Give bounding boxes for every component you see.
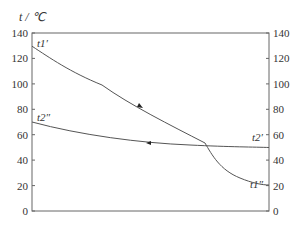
t2-out-label: t2″ [37, 111, 51, 123]
svg-text:120: 120 [12, 52, 29, 64]
t1-in-label: t1′ [37, 37, 49, 49]
svg-text:40: 40 [273, 154, 285, 166]
svg-text:40: 40 [17, 154, 29, 166]
chart: 0 20 40 60 80 100 120 140 0 20 40 60 80 … [0, 0, 301, 228]
series-t1-line [32, 46, 269, 185]
svg-text:100: 100 [12, 78, 29, 90]
svg-text:140: 140 [273, 27, 290, 39]
svg-text:100: 100 [273, 78, 290, 90]
t1-out-label: t1″ [250, 178, 264, 190]
t2-in-label: t2′ [252, 131, 264, 143]
svg-text:80: 80 [17, 103, 29, 115]
svg-text:80: 80 [273, 103, 285, 115]
svg-text:60: 60 [17, 129, 29, 141]
svg-text:20: 20 [17, 180, 29, 192]
svg-text:140: 140 [12, 27, 29, 39]
svg-text:0: 0 [273, 205, 279, 217]
svg-text:120: 120 [273, 52, 290, 64]
right-tick-labels: 0 20 40 60 80 100 120 140 [273, 27, 290, 217]
svg-text:0: 0 [23, 205, 29, 217]
y-axis-title: t / ℃ [19, 10, 47, 24]
left-tick-labels: 0 20 40 60 80 100 120 140 [12, 27, 29, 217]
svg-text:20: 20 [273, 180, 285, 192]
svg-text:60: 60 [273, 129, 285, 141]
plot-frame [32, 33, 269, 211]
